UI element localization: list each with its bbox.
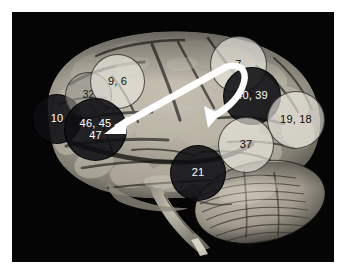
marker-label: 40, 39 (236, 90, 268, 102)
brain-figure: 10 32 9, 6 46, 45 47 21 7 40, 39 19, 18 … (0, 0, 346, 274)
marker-label-line2: 47 (89, 130, 102, 142)
marker-label: 37 (240, 139, 253, 151)
marker-label: 19, 18 (280, 114, 312, 126)
marker-label: 21 (192, 167, 205, 179)
marker-area-37[interactable]: 37 (218, 117, 274, 173)
marker-label: 9, 6 (108, 76, 127, 88)
marker-area-21[interactable]: 21 (170, 145, 226, 201)
marker-label: 10 (51, 113, 64, 125)
photograph-plate: 10 32 9, 6 46, 45 47 21 7 40, 39 19, 18 … (12, 12, 334, 262)
marker-label-line1: 46, 45 (80, 118, 112, 130)
marker-area-19-18[interactable]: 19, 18 (267, 91, 325, 149)
marker-area-46-45-47[interactable]: 46, 45 47 (64, 98, 127, 161)
